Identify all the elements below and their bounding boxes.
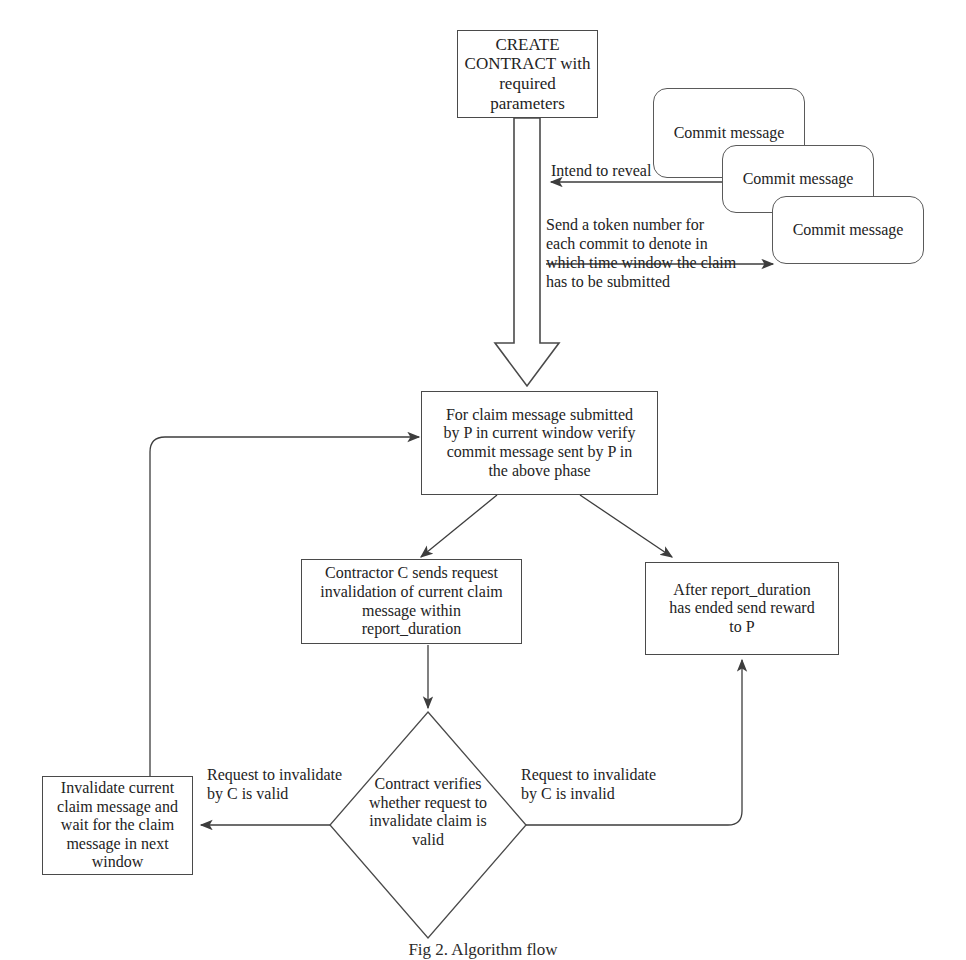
node-invalidate-claim-label: Invalidate current claim message and wai… bbox=[52, 777, 183, 874]
edge-label-request-invalid: Request to invalidate by C is invalid bbox=[521, 766, 711, 804]
node-create-contract[interactable]: CREATE CONTRACT with required parameters bbox=[457, 30, 598, 118]
node-commit-message-3-label: Commit message bbox=[788, 219, 909, 242]
edge-label-request-valid: Request to invalidate by C is valid bbox=[207, 766, 387, 804]
node-contractor-request-label: Contractor C sends request invalidation … bbox=[315, 562, 508, 640]
node-send-reward[interactable]: After report_duration has ended send rew… bbox=[645, 562, 839, 655]
edge-label-send-token: Send a token number for each commit to d… bbox=[546, 216, 786, 292]
flowchart-canvas: CREATE CONTRACT with required parameters… bbox=[0, 0, 966, 960]
node-contractor-request[interactable]: Contractor C sends request invalidation … bbox=[301, 559, 522, 644]
edge-label-intend-to-reveal: Intend to reveal bbox=[551, 162, 721, 181]
figure-caption: Fig 2. Algorithm flow bbox=[0, 940, 966, 960]
node-create-contract-label: CREATE CONTRACT with required parameters bbox=[460, 33, 596, 116]
node-send-reward-label: After report_duration has ended send rew… bbox=[664, 579, 819, 639]
node-commit-message-3[interactable]: Commit message bbox=[772, 196, 924, 264]
node-commit-message-2-label: Commit message bbox=[738, 168, 859, 191]
node-verify-claim[interactable]: For claim message submitted by P in curr… bbox=[421, 391, 658, 495]
node-commit-message-1-label: Commit message bbox=[669, 122, 790, 145]
edge-verify-to-contractor bbox=[421, 495, 497, 557]
edge-verify-to-reward bbox=[580, 495, 672, 557]
node-invalidate-claim[interactable]: Invalidate current claim message and wai… bbox=[42, 776, 193, 875]
node-verify-claim-label: For claim message submitted by P in curr… bbox=[439, 404, 641, 482]
